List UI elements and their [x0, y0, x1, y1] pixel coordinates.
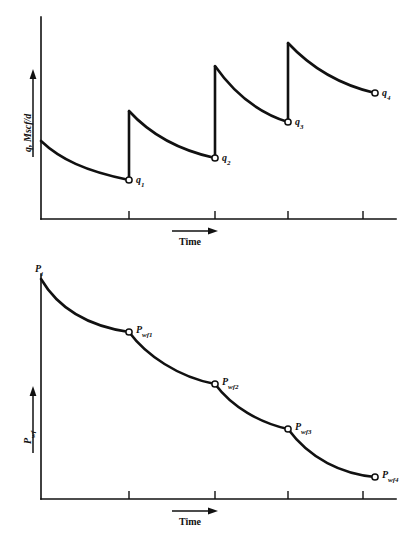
rate-marker-q2: [212, 155, 218, 161]
pressure-point-label-pwf1: Pwf1: [136, 325, 153, 335]
pressure-time-arrow-head: [208, 507, 218, 514]
pressure-point-label-pwf3-sub: wf3: [301, 428, 312, 436]
rate-y-arrow-head: [30, 69, 37, 79]
pressure-y-axis-label-sub: wf: [29, 431, 37, 438]
pressure-point-label-pwf4-sub: wf4: [388, 476, 399, 484]
rate-marker-q1: [126, 177, 132, 183]
rate-panel: q, Mscf/d Time q1 q2 q3 q4: [0, 0, 404, 260]
pressure-x-axis-label: Time: [179, 516, 201, 527]
pressure-point-label-pwf2-sub: wf2: [228, 383, 239, 391]
rate-point-label-q4-sub: 4: [387, 94, 391, 102]
rate-point-label-q1-sub: 1: [141, 181, 145, 189]
pressure-point-label-pwf3: Pwf3: [295, 422, 312, 432]
pressure-point-label-pi: Pi: [35, 264, 43, 274]
pressure-curve-period-2: [129, 332, 215, 384]
pressure-y-arrow-head: [30, 386, 37, 396]
pressure-point-label-pwf4: Pwf4: [382, 470, 399, 480]
rate-x-axis-label: Time: [179, 236, 201, 247]
rate-point-label-q3: q3: [295, 117, 304, 127]
pressure-marker-pwf2: [212, 381, 218, 387]
rate-curve-period-1: [41, 141, 129, 180]
pressure-marker-pwf1: [126, 329, 132, 335]
pressure-point-label-pwf1-sub: wf1: [142, 331, 153, 339]
pressure-y-axis-label: Pwf: [22, 431, 33, 444]
rate-curve-period-4: [288, 43, 375, 93]
pressure-curve-period-3: [215, 384, 288, 429]
pressure-curve-period-4: [288, 429, 375, 477]
rate-time-arrow-head: [208, 227, 218, 234]
multi-rate-gas-well-test-figure: q, Mscf/d Time q1 q2 q3 q4: [0, 0, 404, 537]
rate-point-label-q4: q4: [382, 88, 391, 98]
rate-curve-period-2: [129, 111, 215, 158]
pressure-curve-period-1: [41, 279, 129, 332]
pressure-marker-pwf4: [372, 474, 378, 480]
pressure-y-axis-label-main: P: [22, 438, 33, 444]
rate-marker-q3: [285, 119, 291, 125]
pressure-marker-pwf3: [285, 426, 291, 432]
pressure-point-label-pwf2: Pwf2: [222, 377, 239, 387]
rate-point-label-q3-sub: 3: [300, 123, 304, 131]
rate-plot-svg: [0, 0, 404, 260]
rate-point-label-q2: q2: [222, 153, 231, 163]
rate-point-label-q2-sub: 2: [227, 159, 231, 167]
rate-point-label-q1: q1: [136, 175, 145, 185]
pressure-plot-svg: [0, 260, 404, 537]
rate-y-axis-label: q, Mscf/d: [22, 114, 33, 152]
pressure-point-label-pi-sub: i: [41, 270, 43, 278]
rate-curve-period-3: [215, 66, 288, 122]
rate-marker-q4: [372, 90, 378, 96]
pressure-panel: Pwf Time Pi Pwf1 Pwf2 Pwf3 Pwf4: [0, 260, 404, 537]
